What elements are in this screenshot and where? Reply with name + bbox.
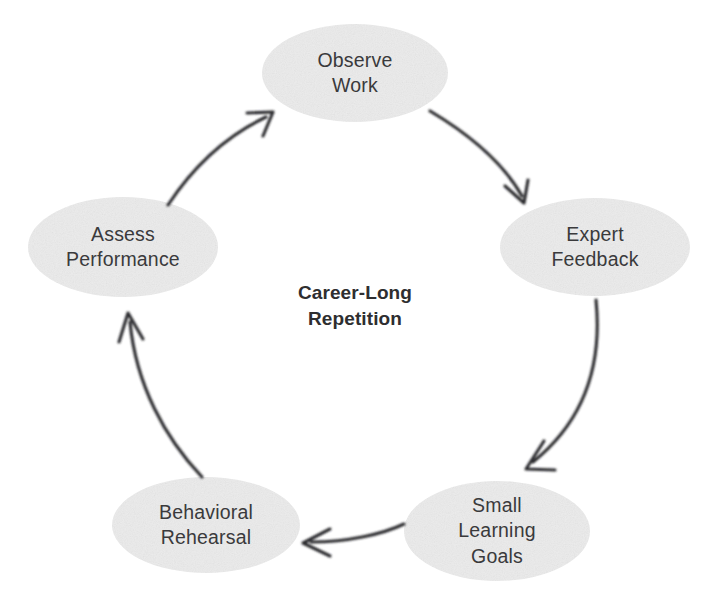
node-ellipse-observe-work[interactable] — [262, 24, 448, 122]
arrow-expert-to-goals — [526, 300, 597, 470]
arrow-assess-to-observe — [168, 112, 273, 205]
center-caption: Career-Long Repetition — [235, 280, 475, 331]
arrow-rehearsal-to-assess — [119, 313, 202, 477]
node-ellipse-assess-performance[interactable] — [28, 197, 218, 297]
cycle-diagram: Observe Work Expert Feedback Small Learn… — [0, 0, 710, 604]
node-ellipse-small-learning-goals[interactable] — [404, 481, 590, 581]
arrow-goals-to-rehearsal — [303, 524, 404, 556]
node-ellipse-behavioral-rehearsal[interactable] — [112, 477, 300, 573]
node-ellipse-expert-feedback[interactable] — [500, 198, 690, 296]
arrow-observe-to-expert — [430, 111, 528, 203]
